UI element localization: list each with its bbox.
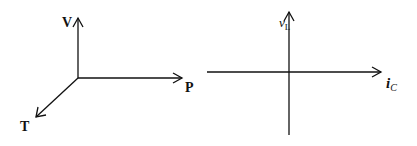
t-axis-label: T [20, 119, 30, 134]
diagram-canvas: V P T vL iC [0, 0, 417, 146]
pvt-axes [36, 18, 182, 117]
t-axis [36, 78, 78, 117]
p-axis-label: P [185, 80, 194, 95]
vl-ic-axes [207, 12, 381, 135]
ic-axis-label: iC [386, 75, 397, 93]
v-axis-label: V [62, 15, 72, 30]
